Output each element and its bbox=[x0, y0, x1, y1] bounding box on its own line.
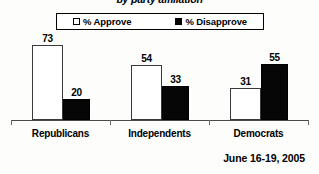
legend-label-disapprove: % Disapprove bbox=[185, 16, 247, 27]
x-axis-label-independents: Independents bbox=[110, 128, 209, 140]
hollow-square-icon bbox=[73, 18, 80, 25]
x-axis-label-democrats: Democrats bbox=[209, 128, 308, 140]
x-axis-tick bbox=[11, 120, 12, 125]
x-axis-tick bbox=[209, 120, 210, 125]
chart-title: by party affiliation bbox=[0, 0, 319, 5]
legend-item-approve: % Approve bbox=[73, 16, 131, 27]
survey-date: June 16-19, 2005 bbox=[223, 152, 305, 164]
x-axis-label-republicans: Republicans bbox=[11, 128, 110, 140]
bar-group-republicans: 73 20 bbox=[11, 38, 110, 120]
bar-chart: by party affiliation % Approve % Disappr… bbox=[0, 0, 319, 174]
bar-value-disapprove: 20 bbox=[63, 87, 90, 98]
legend-label-approve: % Approve bbox=[83, 16, 131, 27]
bar-value-approve: 73 bbox=[32, 33, 63, 44]
chart-legend: % Approve % Disapprove bbox=[56, 13, 264, 30]
bar-value-approve: 54 bbox=[131, 53, 162, 64]
chart-title-clip: by party affiliation bbox=[0, 0, 319, 7]
bar-approve bbox=[131, 65, 162, 120]
bar-approve bbox=[32, 45, 63, 120]
bar-disapprove bbox=[261, 64, 288, 120]
bar-approve bbox=[230, 88, 261, 120]
x-axis-tick bbox=[308, 120, 309, 125]
x-axis-labels: Republicans Independents Democrats bbox=[11, 128, 309, 142]
bar-group-democrats: 31 55 bbox=[209, 38, 308, 120]
bar-disapprove bbox=[63, 99, 90, 120]
bar-value-disapprove: 33 bbox=[162, 74, 189, 85]
bar-group-independents: 54 33 bbox=[110, 38, 209, 120]
bar-disapprove bbox=[162, 86, 189, 120]
plot-area: 73 20 54 33 31 55 bbox=[0, 38, 319, 122]
x-axis-line bbox=[11, 120, 309, 121]
bar-value-disapprove: 55 bbox=[261, 52, 288, 63]
legend-item-disapprove: % Disapprove bbox=[175, 16, 247, 27]
x-axis-tick bbox=[110, 120, 111, 125]
bar-value-approve: 31 bbox=[230, 76, 261, 87]
filled-square-icon bbox=[175, 18, 182, 25]
